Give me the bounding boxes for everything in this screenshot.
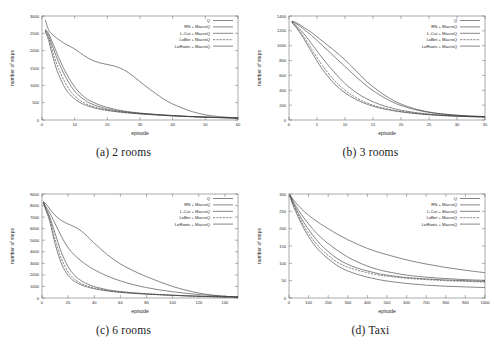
y-axis-title: number of steps bbox=[256, 50, 262, 86]
legend-label: LoBet + MacroQ bbox=[426, 37, 457, 42]
legend-label: RN + MacroQ bbox=[184, 202, 210, 207]
x-tick-label: 10 bbox=[343, 122, 348, 127]
y-tick-label: 400 bbox=[279, 88, 287, 93]
x-tick-label: 900 bbox=[462, 300, 470, 305]
legend-label: L-Cut + MacroQ bbox=[427, 209, 458, 214]
y-tick-label: 0 bbox=[284, 296, 287, 301]
figure-grid: 0500100015002000250030000102030405060epi… bbox=[0, 0, 494, 357]
x-tick-label: 200 bbox=[325, 300, 333, 305]
legend-label: LoRoots + MacroQ bbox=[422, 44, 458, 49]
y-tick-label: 150 bbox=[279, 244, 287, 249]
y-axis-title: number of steps bbox=[9, 228, 15, 264]
y-tick-label: 9000 bbox=[30, 192, 40, 197]
legend-label: L-Cut + MacroQ bbox=[180, 209, 211, 214]
x-tick-label: 60 bbox=[118, 300, 123, 305]
panel-c: 0100020003000400050006000700080009000020… bbox=[0, 178, 247, 357]
x-axis-title: episode bbox=[131, 308, 149, 314]
plot-area-b: 020040060080010001200140005101520253035e… bbox=[247, 0, 494, 150]
panel-a: 0500100015002000250030000102030405060epi… bbox=[0, 0, 247, 178]
y-tick-label: 3000 bbox=[30, 14, 40, 19]
x-tick-label: 600 bbox=[403, 300, 411, 305]
legend-label: RN + MacroQ bbox=[184, 24, 210, 29]
y-tick-label: 7000 bbox=[30, 215, 40, 220]
x-tick-label: 100 bbox=[169, 300, 177, 305]
x-tick-label: 0 bbox=[41, 122, 44, 127]
x-tick-label: 35 bbox=[483, 122, 488, 127]
x-tick-label: 10 bbox=[72, 122, 77, 127]
x-tick-label: 1000 bbox=[480, 300, 490, 305]
y-tick-label: 800 bbox=[279, 58, 287, 63]
y-tick-label: 6000 bbox=[30, 226, 40, 231]
y-tick-label: 100 bbox=[279, 261, 287, 266]
y-tick-label: 1000 bbox=[277, 43, 287, 48]
plot-area-a: 0500100015002000250030000102030405060epi… bbox=[0, 0, 247, 150]
y-tick-label: 1400 bbox=[277, 14, 287, 19]
x-tick-label: 15 bbox=[371, 122, 376, 127]
x-tick-label: 140 bbox=[222, 300, 230, 305]
legend-label: LoRoots + MacroQ bbox=[175, 222, 211, 227]
y-tick-label: 200 bbox=[279, 226, 287, 231]
x-tick-label: 120 bbox=[195, 300, 203, 305]
y-tick-label: 600 bbox=[279, 73, 287, 78]
x-tick-label: 60 bbox=[236, 122, 241, 127]
plot-area-d: 0501001502002503000100200300400500600700… bbox=[247, 178, 494, 328]
chart-b: 020040060080010001200140005101520253035e… bbox=[247, 0, 494, 150]
x-tick-label: 500 bbox=[384, 300, 392, 305]
x-tick-label: 300 bbox=[344, 300, 352, 305]
y-tick-label: 200 bbox=[279, 103, 287, 108]
x-tick-label: 30 bbox=[138, 122, 143, 127]
y-tick-label: 0 bbox=[37, 296, 40, 301]
y-tick-label: 0 bbox=[284, 118, 287, 123]
legend-label: L-Cut + MacroQ bbox=[427, 31, 458, 36]
y-tick-label: 1200 bbox=[277, 28, 287, 33]
legend-label: LoBet + MacroQ bbox=[179, 215, 210, 220]
series-line bbox=[45, 29, 238, 118]
legend-label: LoRoots + MacroQ bbox=[175, 44, 211, 49]
x-tick-label: 100 bbox=[305, 300, 313, 305]
x-tick-label: 25 bbox=[427, 122, 432, 127]
y-tick-label: 2500 bbox=[30, 31, 40, 36]
x-tick-label: 0 bbox=[288, 300, 291, 305]
legend-label: Q bbox=[207, 196, 211, 201]
y-tick-label: 50 bbox=[281, 278, 286, 283]
x-tick-label: 50 bbox=[203, 122, 208, 127]
x-tick-label: 30 bbox=[455, 122, 460, 127]
x-axis-title: episode bbox=[378, 130, 396, 136]
y-tick-label: 8000 bbox=[30, 203, 40, 208]
y-tick-label: 300 bbox=[279, 192, 287, 197]
y-axis-title: number of steps bbox=[9, 50, 15, 86]
legend-label: LoBet + MacroQ bbox=[179, 37, 210, 42]
x-axis-title: episode bbox=[131, 130, 149, 136]
x-tick-label: 20 bbox=[105, 122, 110, 127]
chart-d: 0501001502002503000100200300400500600700… bbox=[247, 178, 494, 328]
series-line bbox=[292, 22, 485, 117]
legend-label: RN + MacroQ bbox=[431, 24, 457, 29]
y-tick-label: 1000 bbox=[30, 284, 40, 289]
x-axis-title: episode bbox=[378, 308, 396, 314]
chart-a: 0500100015002000250030000102030405060epi… bbox=[0, 0, 247, 150]
x-tick-label: 40 bbox=[170, 122, 175, 127]
y-tick-label: 2000 bbox=[30, 272, 40, 277]
x-tick-label: 0 bbox=[288, 122, 291, 127]
y-tick-label: 500 bbox=[32, 100, 40, 105]
legend-label: LoRoots + MacroQ bbox=[422, 222, 458, 227]
y-tick-label: 1500 bbox=[30, 66, 40, 71]
chart-c: 0100020003000400050006000700080009000020… bbox=[0, 178, 247, 328]
y-tick-label: 250 bbox=[279, 209, 287, 214]
y-axis-title: number of steps bbox=[256, 228, 262, 264]
x-tick-label: 5 bbox=[316, 122, 319, 127]
x-tick-label: 20 bbox=[66, 300, 71, 305]
y-tick-label: 3000 bbox=[30, 261, 40, 266]
x-tick-label: 700 bbox=[423, 300, 431, 305]
legend-label: Q bbox=[207, 18, 211, 23]
y-tick-label: 1000 bbox=[30, 83, 40, 88]
legend-label: LoBet + MacroQ bbox=[426, 215, 457, 220]
y-tick-label: 0 bbox=[37, 118, 40, 123]
panel-b: 020040060080010001200140005101520253035e… bbox=[247, 0, 494, 178]
plot-area-c: 0100020003000400050006000700080009000020… bbox=[0, 178, 247, 328]
y-tick-label: 4000 bbox=[30, 249, 40, 254]
y-tick-label: 5000 bbox=[30, 238, 40, 243]
x-tick-label: 0 bbox=[41, 300, 44, 305]
x-tick-label: 80 bbox=[144, 300, 149, 305]
legend-label: RN + MacroQ bbox=[431, 202, 457, 207]
